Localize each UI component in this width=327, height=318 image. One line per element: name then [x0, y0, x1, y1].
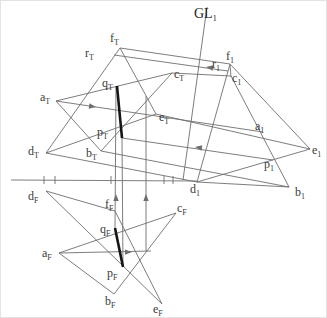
edge-aT-bT: [56, 101, 101, 151]
ground-line-GL1: [183, 7, 207, 180]
projection-ray-e: [156, 114, 310, 149]
label-qF: qF: [100, 223, 110, 238]
projection-ray-d: [46, 153, 197, 182]
edge-aF-bF: [59, 253, 114, 294]
label-eF: eF: [153, 303, 163, 318]
label-p1: p1: [264, 158, 274, 173]
edge-f1-e1: [230, 64, 310, 149]
label-pF: pF: [107, 267, 117, 282]
edge-cT-aT: [56, 73, 172, 101]
label-cF: cF: [177, 202, 187, 217]
edge-d1-e1: [197, 149, 310, 182]
label-eT: eT: [159, 111, 169, 126]
label-dT: dT: [28, 145, 39, 160]
projection-ray-p: [122, 138, 273, 160]
label-cT: cT: [174, 68, 184, 83]
label-bF: bF: [105, 295, 115, 310]
reference-axis: [11, 180, 197, 181]
arrowhead-vertical-q: [113, 194, 118, 201]
label-pT: pT: [97, 126, 108, 141]
label-a1: a1: [255, 120, 264, 135]
label-d1: d1: [190, 183, 200, 198]
label-bT: bT: [86, 147, 97, 162]
tick-c1: [230, 65, 231, 77]
label-fF: fF: [105, 198, 113, 213]
figure-canvas: GL1fTrTqTaTcTeTpTdTbTf1r1c1a1e1p1d1b1dFf…: [0, 0, 327, 318]
label-qT: qT: [102, 77, 113, 92]
label-aF: aF: [42, 247, 52, 262]
arrowhead-ray-aF: [125, 249, 132, 255]
projection-vertical-p: [122, 138, 123, 267]
label-e1: e1: [312, 144, 321, 159]
projection-vertical-q: [115, 86, 116, 228]
segment-qF-pF: [115, 228, 123, 267]
label-f1: f1: [226, 50, 234, 65]
label-r1: r1: [212, 58, 220, 73]
diagram-svg: [1, 1, 327, 318]
projection-ray-aF: [59, 251, 151, 253]
label-fT: fT: [110, 32, 119, 47]
label-dF: dF: [28, 190, 38, 205]
label-rT: rT: [85, 47, 94, 62]
label-c1: c1: [232, 72, 241, 87]
edge-cF-aF: [59, 213, 176, 253]
arrowhead-ray-p: [195, 144, 203, 150]
label-aT: aT: [40, 91, 50, 106]
label-GL1: GL1: [194, 7, 217, 23]
arrowhead-vertical-aux: [143, 194, 148, 201]
label-b1: b1: [295, 186, 305, 201]
